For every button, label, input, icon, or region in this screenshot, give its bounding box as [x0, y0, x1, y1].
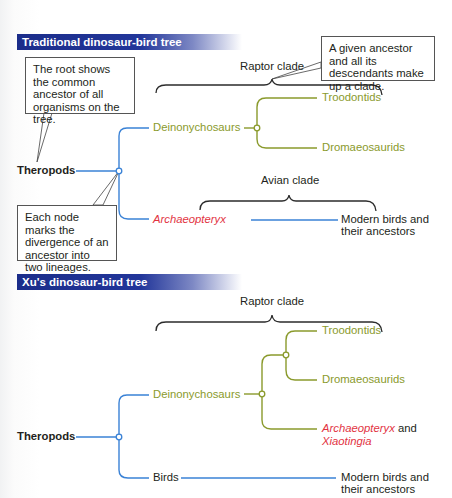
- deinonychosaurs-label: Deinonychosaurs: [153, 121, 240, 134]
- birds-label: Birds: [153, 471, 179, 484]
- dromaeosaurids-label-xu: Dromaeosaurids: [322, 373, 405, 386]
- callout-node: Each node marks the divergence of an anc…: [17, 205, 117, 261]
- archaeopteryx-label: Archaeopteryx: [153, 213, 226, 226]
- archaeopteryx-xiaotingia-label: Archaeopteryx and: [322, 422, 417, 435]
- callout-root: The root shows the common ancestor of al…: [25, 57, 135, 114]
- archaeopteryx-label-xu: Archaeopteryx: [322, 422, 395, 434]
- theropods-label: Theropods: [17, 164, 75, 177]
- callout-pointer-node: [93, 171, 119, 205]
- theropods-label-xu: Theropods: [17, 430, 75, 443]
- traditional-tree-header: Traditional dinosaur-bird tree: [17, 34, 242, 50]
- troodontids-label-xu: Troodontids: [322, 324, 381, 337]
- modern-birds-label-xu-line2: their ancestors: [341, 483, 415, 496]
- raptor-clade-label: Raptor clade: [240, 60, 304, 73]
- avian-clade-label: Avian clade: [261, 174, 319, 187]
- xu-tree-header: Xu's dinosaur-bird tree: [17, 274, 242, 290]
- xiaotingia-label: Xiaotingia: [322, 435, 372, 448]
- raptor-clade-label-xu: Raptor clade: [240, 295, 304, 308]
- callout-clade: A given ancestor and all its descendants…: [321, 36, 435, 81]
- troodontids-label: Troodontids: [322, 91, 381, 104]
- avian-clade-brace: [200, 195, 376, 211]
- deinonychosaurs-label-xu: Deinonychosaurs: [153, 388, 240, 401]
- dromaeosaurids-label: Dromaeosaurids: [322, 141, 405, 154]
- modern-birds-label-line2: their ancestors: [341, 225, 415, 238]
- and-label: and: [395, 422, 417, 434]
